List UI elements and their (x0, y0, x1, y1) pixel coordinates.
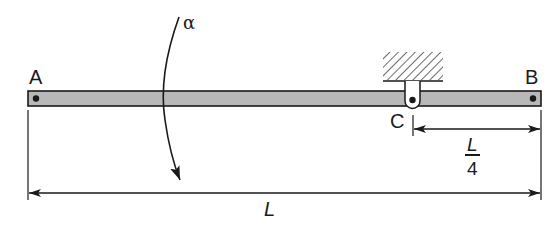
label-c: C (390, 111, 404, 131)
support-c-hanger (405, 81, 420, 109)
label-total-length: L (264, 199, 275, 219)
pin-b-dot (530, 95, 536, 101)
label-alpha: α (183, 14, 195, 32)
fixed-support-ceiling (383, 52, 443, 81)
fraction-denominator: 4 (467, 156, 478, 178)
fraction-numerator: L (465, 135, 480, 156)
beam-diagram (0, 0, 556, 229)
beam (28, 91, 541, 106)
label-b: B (525, 67, 538, 87)
label-a: A (29, 67, 42, 87)
label-support-offset-fraction: L 4 (465, 135, 480, 178)
pin-c-dot (409, 97, 415, 103)
pin-a-dot (33, 95, 39, 101)
